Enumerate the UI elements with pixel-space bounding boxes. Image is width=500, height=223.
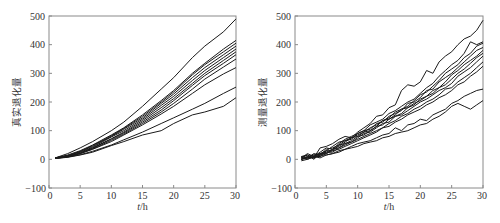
x-tick-label: 15: [138, 190, 148, 201]
y-tick-label: −100: [271, 183, 292, 194]
x-axis-label: t/h: [384, 201, 395, 212]
x-tick-label: 30: [477, 190, 487, 201]
y-tick-label: 500: [276, 11, 291, 22]
y-tick-label: 300: [30, 68, 45, 79]
series-line: [55, 19, 236, 158]
series-line: [55, 59, 236, 158]
series-line: [301, 48, 483, 158]
y-tick-labels: 500 400 300 200 100 0 −100: [25, 11, 46, 194]
chart-measured-degradation: 500 400 300 200 100 0 −100 0 5 10 15 20 …: [257, 11, 487, 213]
x-tick-label: 10: [353, 190, 363, 201]
y-tick-label: 500: [30, 11, 45, 22]
y-tick-label: 200: [30, 97, 45, 108]
x-tick-label: 0: [294, 190, 299, 201]
x-tick-label: 10: [106, 190, 116, 201]
series-lines: [301, 20, 483, 161]
series-line: [55, 46, 236, 158]
y-tick-label: 0: [40, 154, 45, 165]
y-tick-label: 200: [276, 97, 291, 108]
x-tick-label: 25: [447, 190, 457, 201]
x-tick-label: 30: [230, 190, 240, 201]
x-tick-labels: 0 5 10 15 20 25 30: [294, 190, 488, 201]
series-line: [301, 42, 483, 158]
y-tick-label: 100: [276, 125, 291, 136]
x-tick-label: 25: [200, 190, 210, 201]
x-tick-label: 5: [78, 190, 83, 201]
series-line: [55, 40, 236, 157]
series-line: [301, 20, 483, 158]
y-tick-labels: 500 400 300 200 100 0 −100: [271, 11, 292, 194]
y-tick-label: 0: [286, 154, 291, 165]
y-tick-label: 300: [276, 68, 291, 79]
y-tick-label: −100: [25, 183, 46, 194]
x-tick-label: 20: [169, 190, 179, 201]
series-lines: [55, 19, 236, 159]
chart-true-degradation: 500 400 300 200 100 0 −100 0 5 10 15 20 …: [11, 11, 240, 213]
x-tick-label: 5: [324, 190, 329, 201]
y-tick-label: 100: [30, 125, 45, 136]
x-tick-label: 0: [48, 190, 53, 201]
y-tick-label: 400: [276, 39, 291, 50]
series-line: [301, 62, 483, 159]
x-axis-label: t/h: [137, 201, 148, 212]
chart-canvas: 500 400 300 200 100 0 −100 0 5 10 15 20 …: [0, 0, 500, 223]
y-axis-label: 真实退化量: [11, 77, 22, 127]
x-tick-labels: 0 5 10 15 20 25 30: [48, 190, 241, 201]
x-tick-label: 20: [415, 190, 425, 201]
x-tick-label: 15: [384, 190, 394, 201]
y-axis-label: 测量退化量: [257, 77, 268, 127]
y-tick-label: 400: [30, 39, 45, 50]
figure: 500 400 300 200 100 0 −100 0 5 10 15 20 …: [0, 0, 500, 223]
